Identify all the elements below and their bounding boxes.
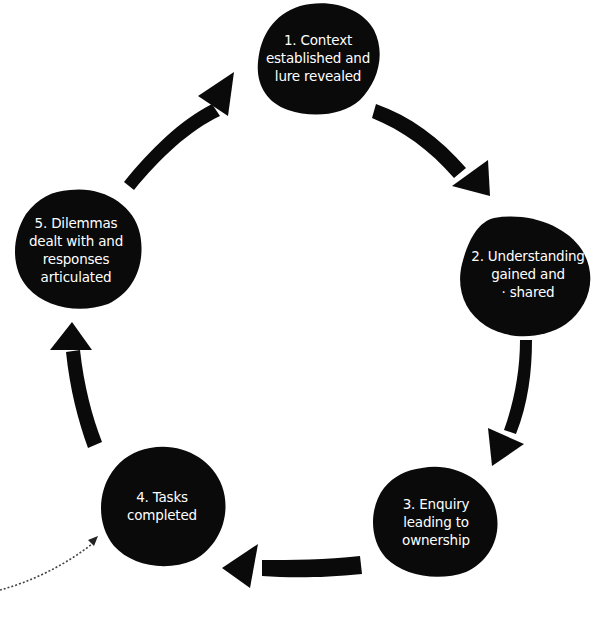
dotted-pointer-arrow	[0, 536, 98, 590]
node-1-blob	[258, 3, 380, 114]
arrow-3-to-4	[222, 544, 362, 588]
node-4-blob	[101, 447, 226, 566]
cycle-diagram: 1. Context established and lure revealed…	[0, 0, 602, 625]
node-3-blob	[373, 467, 498, 577]
arrow-5-to-1	[124, 72, 234, 190]
cycle-diagram-canvas	[0, 0, 602, 625]
arrow-1-to-2	[372, 104, 490, 196]
arrow-4-to-5	[50, 322, 102, 448]
node-2-blob	[460, 217, 590, 337]
node-5-blob	[15, 189, 142, 308]
arrow-2-to-3	[488, 340, 532, 466]
